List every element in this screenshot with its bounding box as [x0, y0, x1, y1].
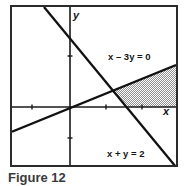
plot-frame: x – 3y = 0 x + y = 2 y x: [10, 5, 178, 167]
figure-caption: Figure 12: [8, 172, 128, 186]
axis-label-y: y: [73, 9, 79, 21]
line-label-x-plus-y: x + y = 2: [107, 148, 145, 159]
plot-svg: [12, 7, 176, 165]
figure-container: x – 3y = 0 x + y = 2 y x Figure 12: [0, 0, 184, 186]
figure-caption-text: Figure 12: [8, 172, 66, 185]
line-label-x-minus-3y: x – 3y = 0: [108, 51, 151, 62]
axis-label-x: x: [163, 105, 169, 117]
